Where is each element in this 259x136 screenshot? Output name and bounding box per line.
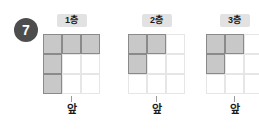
front-tick-icon bbox=[234, 96, 235, 102]
floor-grid bbox=[206, 34, 259, 94]
grid-cell-empty bbox=[244, 74, 259, 94]
grid-cell-empty bbox=[128, 74, 147, 94]
grid-cell-empty bbox=[81, 54, 100, 74]
grid-cell-empty bbox=[166, 34, 185, 54]
grid-cell-empty bbox=[62, 54, 81, 74]
floor-label: 1층 bbox=[57, 14, 87, 27]
grid-cell-filled bbox=[128, 54, 147, 74]
grid-cell-filled bbox=[81, 34, 100, 54]
grid-cell-empty bbox=[81, 74, 100, 94]
grid-cell-filled bbox=[128, 34, 147, 54]
grid-cell-filled bbox=[225, 34, 244, 54]
grid-cell-empty bbox=[206, 74, 225, 94]
question-number-badge: 7 bbox=[14, 18, 38, 42]
floor-label: 2층 bbox=[142, 14, 172, 27]
floor-label: 3층 bbox=[220, 14, 250, 27]
grid-cell-empty bbox=[147, 54, 166, 74]
grid-cell-filled bbox=[43, 54, 62, 74]
front-marker: 앞 bbox=[43, 96, 100, 116]
grid-cell-empty bbox=[62, 74, 81, 94]
floor-plan-panel: 2층앞 bbox=[128, 14, 185, 116]
grid-cell-empty bbox=[225, 74, 244, 94]
grid-cell-empty bbox=[244, 54, 259, 74]
grid-cell-empty bbox=[244, 34, 259, 54]
floor-grid bbox=[128, 34, 185, 94]
grid-cell-filled bbox=[206, 54, 225, 74]
worksheet-figure: 7 1층앞2층앞3층앞 bbox=[0, 0, 259, 136]
front-label: 앞 bbox=[206, 103, 259, 116]
grid-cell-filled bbox=[62, 34, 81, 54]
front-label: 앞 bbox=[43, 103, 100, 116]
front-tick-icon bbox=[71, 96, 72, 102]
grid-cell-filled bbox=[206, 34, 225, 54]
floor-plan-panel: 1층앞 bbox=[43, 14, 100, 116]
front-tick-icon bbox=[156, 96, 157, 102]
grid-cell-empty bbox=[166, 54, 185, 74]
floor-plan-panel: 3층앞 bbox=[206, 14, 259, 116]
front-marker: 앞 bbox=[206, 96, 259, 116]
grid-cell-empty bbox=[225, 54, 244, 74]
grid-cell-filled bbox=[43, 34, 62, 54]
front-label: 앞 bbox=[128, 103, 185, 116]
floor-grid bbox=[43, 34, 100, 94]
grid-cell-filled bbox=[147, 34, 166, 54]
front-marker: 앞 bbox=[128, 96, 185, 116]
grid-cell-empty bbox=[147, 74, 166, 94]
grid-cell-filled bbox=[43, 74, 62, 94]
grid-cell-empty bbox=[166, 74, 185, 94]
